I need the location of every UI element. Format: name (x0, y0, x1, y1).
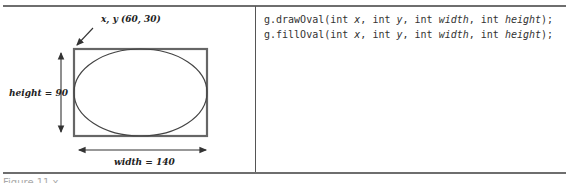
statement-end: ); (541, 29, 553, 40)
separator: , (469, 14, 481, 25)
param-type: int (481, 29, 505, 40)
origin-label: x, y (60, 30) (101, 14, 161, 24)
param-type: int (481, 14, 505, 25)
separator: , (469, 29, 481, 40)
height-label: height = 90 (9, 88, 68, 98)
param-type: int (330, 29, 354, 40)
code-line-filloval: g.fillOval(int x, int y, int width, int … (264, 27, 553, 42)
separator: , (403, 29, 415, 40)
statement-end: ); (541, 14, 553, 25)
param-name: width (439, 29, 469, 40)
code-line-drawoval: g.drawOval(int x, int y, int width, int … (264, 12, 553, 27)
table-bottom-border (3, 172, 566, 174)
method-name: g.fillOval( (264, 29, 330, 40)
param-type: int (372, 29, 396, 40)
param-type: int (372, 14, 396, 25)
param-name: height (505, 29, 541, 40)
oval-shape (74, 49, 207, 136)
param-type: int (330, 14, 354, 25)
column-divider (255, 6, 256, 173)
code-block: g.drawOval(int x, int y, int width, int … (264, 12, 553, 42)
oval-diagram: x, y (60, 30) height = 90 width = 140 (0, 7, 255, 172)
param-name: width (439, 14, 469, 25)
separator: , (360, 14, 372, 25)
param-name: height (505, 14, 541, 25)
param-type: int (415, 14, 439, 25)
separator: , (360, 29, 372, 40)
separator: , (403, 14, 415, 25)
origin-pointer-arrow (77, 28, 93, 45)
method-name: g.drawOval( (264, 14, 330, 25)
width-label: width = 140 (114, 157, 175, 167)
figure-caption: Figure 11.x (3, 177, 59, 183)
param-type: int (415, 29, 439, 40)
